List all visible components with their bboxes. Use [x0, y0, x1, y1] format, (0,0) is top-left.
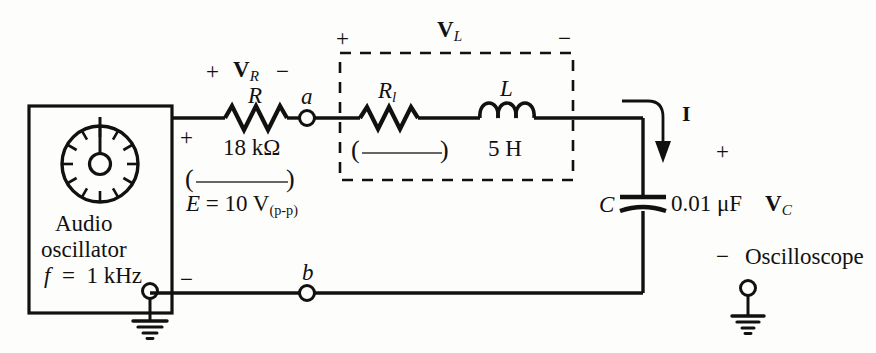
- circuit-schematic-canvas: [0, 0, 876, 353]
- inductor-L-value-label: 5 H: [488, 137, 522, 160]
- oscillator-dial-knob: [90, 154, 111, 175]
- current-label: I: [682, 103, 691, 125]
- emf-symbol: E: [186, 191, 200, 216]
- emf-subscript: (p-p): [269, 202, 298, 218]
- capacitor-plus-sign: +: [716, 140, 729, 163]
- capacitor-bottom-plate: [620, 207, 666, 211]
- source-plus-terminal-sign: +: [180, 126, 193, 149]
- capacitor-value-label: 0.01 μF: [671, 192, 742, 215]
- frequency-symbol: f: [44, 263, 50, 288]
- capacitor-voltage-label: VC: [765, 192, 792, 217]
- node-a-terminal: [300, 111, 315, 126]
- capacitor-voltage-symbol: V: [765, 191, 782, 216]
- resistor-R-minus-sign: −: [276, 60, 289, 83]
- resistor-R-symbol: [225, 106, 287, 130]
- resistor-R-blank-close-paren: ): [286, 166, 295, 192]
- resistor-R-voltage-subscript: R: [250, 67, 259, 84]
- resistor-Rl-symbol-label: Rl: [378, 79, 396, 104]
- inductor-L-symbol-label: L: [500, 77, 513, 100]
- capacitor-voltage-subscript: C: [782, 201, 792, 218]
- node-a-label: a: [301, 85, 313, 108]
- circuit-diagram-figure: Audio oscillator f = 1 kHz + − E = 10 V(…: [0, 0, 876, 353]
- resistor-Rl-symbol: R: [378, 78, 392, 103]
- oscilloscope-ground-symbol: [732, 316, 764, 334]
- emf-equation: = 10 V: [200, 191, 269, 216]
- oscillator-ground-symbol: [133, 321, 167, 339]
- coil-box-voltage-label: VL: [437, 18, 462, 43]
- audio-oscillator-label-line2: oscillator: [41, 238, 127, 261]
- coil-box-minus-sign: −: [558, 27, 571, 50]
- node-b-label: b: [302, 261, 314, 284]
- oscillator-frequency-label: f = 1 kHz: [44, 264, 142, 287]
- oscilloscope-label: Oscilloscope: [745, 245, 864, 268]
- source-emf-label: E = 10 V(p-p): [186, 192, 298, 217]
- capacitor-minus-sign: −: [716, 245, 729, 268]
- resistor-R-voltage-symbol: V: [233, 57, 250, 82]
- resistor-Rl-symbol: [360, 107, 418, 129]
- resistor-R-plus-sign: +: [206, 60, 219, 83]
- coil-voltage-subscript: L: [454, 27, 462, 44]
- audio-oscillator-label-line1: Audio: [55, 212, 113, 235]
- resistor-Rl-blank-open-paren: (: [351, 137, 360, 163]
- oscillator-ground-terminal: [143, 284, 158, 299]
- capacitor-symbol-label: C: [599, 193, 614, 216]
- resistor-Rl-blank-close-paren: ): [440, 137, 449, 163]
- resistor-R-blank-open-paren: (: [185, 166, 194, 192]
- frequency-equals: =: [56, 263, 80, 288]
- resistor-Rl-subscript: l: [392, 88, 396, 105]
- resistor-R-symbol-label: R: [248, 84, 262, 107]
- frequency-value: 1 kHz: [86, 263, 142, 288]
- source-minus-terminal-sign: −: [180, 268, 193, 291]
- node-b-terminal: [300, 286, 315, 301]
- inductor-L-symbol: [480, 103, 534, 118]
- oscilloscope-ground-terminal: [741, 281, 756, 296]
- current-arrow-head: [655, 141, 671, 163]
- resistor-R-value-label: 18 kΩ: [223, 136, 280, 159]
- coil-voltage-symbol: V: [437, 17, 454, 42]
- coil-box-plus-sign: +: [336, 27, 349, 50]
- resistor-R-voltage-label: VR: [233, 58, 259, 83]
